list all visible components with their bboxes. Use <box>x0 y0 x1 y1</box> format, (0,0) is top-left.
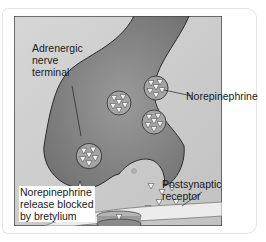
label-line: Norepinephrine <box>19 186 95 198</box>
label-line: by bretylium <box>19 210 95 222</box>
label-line: nerve <box>32 54 83 66</box>
label-release-blocked: Norepinephrine release blocked by bretyl… <box>19 186 95 222</box>
label-postsynaptic-receptor: Postsynaptic receptor <box>162 178 222 202</box>
label-adrenergic-terminal: Adrenergic nerve terminal <box>32 42 83 78</box>
label-line: Postsynaptic <box>162 178 222 190</box>
label-line: terminal <box>32 66 83 78</box>
label-line: Norepinephrine <box>186 90 258 102</box>
label-line: receptor <box>162 190 222 202</box>
vesicle <box>142 110 166 134</box>
label-line: release blocked <box>19 198 95 210</box>
synapse-diagram: Adrenergic nerve terminal Norepinephrine… <box>14 16 222 226</box>
label-norepinephrine: Norepinephrine <box>186 90 258 102</box>
vesicle <box>144 76 168 100</box>
vesicle <box>107 91 131 115</box>
label-line: Adrenergic <box>32 42 83 54</box>
vesicle <box>76 143 101 168</box>
